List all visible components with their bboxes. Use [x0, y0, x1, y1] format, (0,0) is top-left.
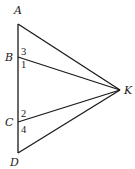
segments-group — [18, 24, 120, 153]
angle-2-label: 2 — [21, 108, 26, 119]
point-label-b: B — [4, 51, 13, 64]
point-label-a: A — [13, 4, 22, 17]
segment-DK — [18, 90, 120, 153]
point-label-k: K — [123, 84, 133, 97]
angle-4-label: 4 — [21, 124, 27, 135]
point-label-d: D — [9, 156, 19, 169]
segment-CK — [18, 90, 120, 122]
segment-AK — [18, 24, 120, 90]
angle-1-label: 1 — [21, 59, 26, 70]
angle-labels-group: 3124 — [21, 46, 27, 135]
angle-3-label: 3 — [21, 46, 26, 57]
point-label-c: C — [5, 116, 14, 129]
geometry-diagram: ABCDK 3124 — [0, 0, 135, 169]
segment-BK — [18, 57, 120, 90]
